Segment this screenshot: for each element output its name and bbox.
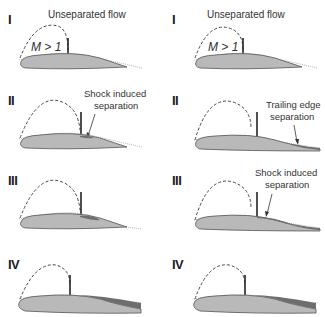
airfoil-diagram [0,160,162,238]
airfoil-diagram [163,237,325,315]
airfoil-diagram [0,237,162,315]
panel-right-1: I Unseparated flow M > 1 [163,0,325,78]
panel-right-2: II Trailing edge separation [163,80,325,158]
airfoil [196,54,303,69]
airfoil [196,135,321,151]
airfoil [21,214,128,229]
airfoil-diagram [163,0,325,78]
panel-left-2: II Shock induced separation [0,80,162,158]
panel-left-1: I Unseparated flow M > 1 [0,0,162,78]
sonic-line [195,101,251,140]
panel-left-3: III [0,160,162,238]
airfoil-diagram [163,160,325,238]
airfoil-diagram [163,80,325,158]
panel-left-4: IV [0,237,162,315]
airfoil-diagram [0,80,162,158]
panel-right-4: IV [163,237,325,315]
sonic-line [20,100,80,138]
arrow-head [265,211,269,217]
sonic-line [20,180,80,218]
annotation-arrow [88,114,95,136]
airfoil-diagram [0,0,162,78]
panel-right-3: III Shock induced separation [163,160,325,238]
airfoil [21,134,128,149]
sonic-line [20,265,70,299]
sonic-line [195,181,251,220]
sonic-line [195,265,245,299]
airfoil [21,54,128,69]
annotation-arrow [267,194,272,214]
